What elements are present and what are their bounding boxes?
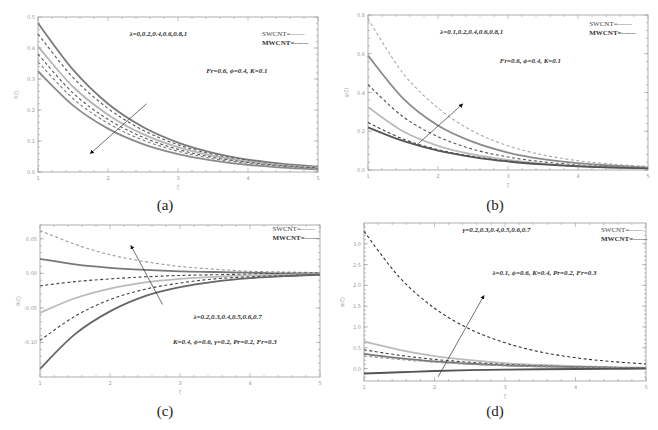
series-line bbox=[40, 275, 320, 341]
x-axis: 12345ζ bbox=[362, 223, 647, 400]
caption-b: (b) bbox=[470, 197, 520, 214]
plot-frame bbox=[364, 223, 646, 381]
y-tick-label: 1.0 bbox=[353, 324, 361, 330]
fixed-parameters-annotation: Fr=0.6, ϕ=0.4, K=0.1 bbox=[206, 67, 267, 75]
trend-arrow-icon bbox=[417, 104, 463, 145]
legend-swcnt: SWCNT=—— bbox=[272, 225, 315, 233]
legend: SWCNT=——MWCNT=------ bbox=[272, 225, 319, 242]
x-tick-label: 5 bbox=[644, 384, 647, 390]
x-axis-label: ζ bbox=[507, 182, 510, 189]
x-axis-label: ζ bbox=[504, 393, 507, 400]
series-line bbox=[364, 231, 646, 364]
series-group bbox=[40, 231, 320, 369]
legend: SWCNT=——MWCNT=------ bbox=[262, 30, 309, 47]
chart-a: 12345ζ0.00.10.20.30.40.5f(ζ)λ=0,0.2,0.4,… bbox=[0, 0, 330, 215]
legend-mwcnt: MWCNT=------ bbox=[262, 39, 309, 47]
series-line bbox=[368, 127, 648, 168]
x-tick-label: 1 bbox=[36, 175, 39, 181]
y-tick-label: 0.4 bbox=[27, 45, 35, 51]
x-tick-label: 5 bbox=[646, 173, 649, 179]
legend-swcnt: SWCNT=—— bbox=[601, 226, 644, 234]
x-tick-label: 1 bbox=[366, 173, 369, 179]
series-line bbox=[368, 85, 648, 168]
x-tick-label: 3 bbox=[178, 380, 181, 386]
y-axis-label: g(ζ) bbox=[343, 88, 350, 98]
chart-panel-d: 12345ζ0.00.51.01.52.02.53.0ϕ(ζ)γ=0.2,0.3… bbox=[330, 215, 658, 430]
y-tick-label: 0.0 bbox=[27, 169, 35, 175]
x-axis: 12345ζ bbox=[38, 225, 321, 396]
x-tick-label: 2 bbox=[106, 175, 109, 181]
series-line bbox=[38, 71, 318, 169]
y-tick-label: 0.5 bbox=[353, 345, 361, 351]
fixed-parameters-annotation: K=0.4, ϕ=0.6, γ=0.2, Pr=0.2, Fr=0.3 bbox=[172, 338, 277, 346]
y-axis-label: θ(ζ) bbox=[15, 296, 22, 306]
y-tick-label: 0.4 bbox=[357, 90, 365, 96]
y-tick-label: 0.3 bbox=[27, 76, 35, 82]
chart-panel-b: 12345ζ0.00.20.40.60.8g(ζ)λ=0.1,0.2,0.4,0… bbox=[330, 0, 658, 215]
series-line bbox=[364, 369, 646, 374]
legend: SWCNT=——MWCNT=------ bbox=[601, 226, 648, 243]
series-line bbox=[368, 56, 648, 168]
chart-d: 12345ζ0.00.51.01.52.02.53.0ϕ(ζ)γ=0.2,0.3… bbox=[330, 215, 658, 430]
x-tick-label: 4 bbox=[248, 380, 251, 386]
x-axis-label: ζ bbox=[177, 184, 180, 191]
fixed-parameters-annotation: λ=0.1, ϕ=0.6, K=0.4, Pr=0.2, Fr=0.3 bbox=[492, 269, 597, 277]
plot-frame bbox=[40, 225, 320, 377]
x-tick-label: 2 bbox=[433, 384, 436, 390]
legend-mwcnt: MWCNT=------ bbox=[589, 29, 636, 37]
series-line bbox=[368, 19, 648, 167]
x-tick-label: 3 bbox=[506, 173, 509, 179]
x-axis: 12345ζ bbox=[366, 15, 649, 189]
caption-c: (c) bbox=[140, 403, 190, 420]
x-tick-label: 3 bbox=[503, 384, 506, 390]
x-tick-label: 1 bbox=[362, 384, 365, 390]
series-group bbox=[364, 231, 646, 373]
legend: SWCNT=——MWCNT=------ bbox=[589, 20, 636, 37]
y-tick-label: 2.0 bbox=[353, 282, 361, 288]
y-tick-label: 0.8 bbox=[357, 12, 365, 18]
y-tick-label: 0.2 bbox=[27, 107, 35, 113]
caption-d: (d) bbox=[470, 403, 520, 420]
y-tick-label: 1.5 bbox=[353, 303, 361, 309]
legend-swcnt: SWCNT=—— bbox=[262, 30, 305, 38]
legend-mwcnt: MWCNT=------ bbox=[601, 235, 648, 243]
series-line bbox=[40, 274, 320, 313]
x-tick-label: 4 bbox=[574, 384, 577, 390]
legend-mwcnt: MWCNT=------ bbox=[272, 234, 319, 242]
chart-b: 12345ζ0.00.20.40.60.8g(ζ)λ=0.1,0.2,0.4,0… bbox=[330, 0, 658, 215]
parameter-range-annotation: γ=0.2,0.3,0.4,0.5,0.6,0.7 bbox=[462, 226, 531, 234]
y-tick-label: 0.1 bbox=[27, 138, 35, 144]
y-tick-label: -0.05 bbox=[24, 305, 37, 311]
y-tick-label: 2.5 bbox=[353, 262, 361, 268]
x-tick-label: 2 bbox=[108, 380, 111, 386]
plot-frame bbox=[368, 15, 648, 170]
y-tick-label: -0.10 bbox=[24, 339, 37, 345]
series-line bbox=[364, 354, 646, 368]
series-line bbox=[364, 342, 646, 368]
chart-panel-a: 12345ζ0.00.10.20.30.40.5f(ζ)λ=0,0.2,0.4,… bbox=[0, 0, 330, 215]
legend-swcnt: SWCNT=—— bbox=[589, 20, 632, 28]
y-axis: 0.00.51.01.52.02.53.0ϕ(ζ) bbox=[339, 227, 646, 377]
x-tick-label: 3 bbox=[176, 175, 179, 181]
chart-panel-c: 12345ζ0.050.00-0.05-0.10θ(ζ)λ=0.2,0.3,0.… bbox=[0, 215, 330, 430]
y-tick-label: 0.2 bbox=[357, 128, 365, 134]
parameter-range-annotation: λ=0.2,0.3,0.4,0.5,0.6,0.7 bbox=[192, 313, 262, 321]
y-tick-label: 0.00 bbox=[26, 270, 37, 276]
x-tick-label: 1 bbox=[38, 380, 41, 386]
y-axis-label: ϕ(ζ) bbox=[339, 297, 346, 307]
x-tick-label: 5 bbox=[318, 380, 321, 386]
x-axis-label: ζ bbox=[179, 389, 182, 396]
y-tick-label: 3.0 bbox=[353, 241, 361, 247]
y-tick-label: 0.0 bbox=[357, 167, 365, 173]
x-tick-label: 4 bbox=[246, 175, 249, 181]
x-tick-label: 4 bbox=[576, 173, 579, 179]
series-line bbox=[40, 275, 320, 369]
y-tick-label: 0.05 bbox=[26, 236, 37, 242]
parameter-range-annotation: λ=0.1,0.2,0.4,0.6,0.8,1 bbox=[439, 28, 503, 36]
y-axis-label: f(ζ) bbox=[13, 90, 20, 98]
caption-a: (a) bbox=[140, 197, 190, 214]
y-tick-label: 0.0 bbox=[353, 366, 361, 372]
x-tick-label: 5 bbox=[316, 175, 319, 181]
x-tick-label: 2 bbox=[436, 173, 439, 179]
fixed-parameters-annotation: Fr=0.6, ϕ=0.4, K=0.1 bbox=[500, 57, 561, 65]
